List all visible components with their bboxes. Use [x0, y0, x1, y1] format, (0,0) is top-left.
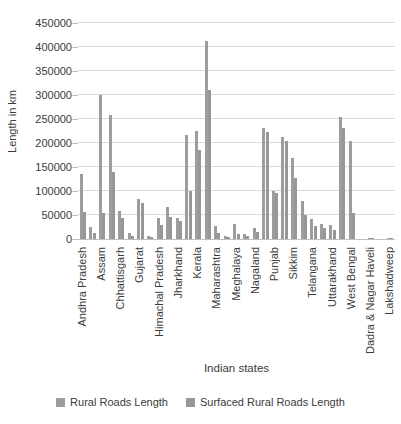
gridline — [78, 214, 395, 215]
bar-surfaced-rural-roads-length — [371, 238, 374, 239]
x-category-label: Kerala — [191, 247, 204, 279]
gridline — [78, 190, 395, 191]
bar-surfaced-rural-roads-length — [189, 191, 192, 239]
y-tick-label: 350000 — [0, 65, 72, 77]
y-tick-label: 300000 — [0, 89, 72, 101]
bar-surfaced-rural-roads-length — [160, 225, 163, 239]
bar-surfaced-rural-roads-length — [285, 141, 288, 239]
legend-label: Rural Roads Length — [70, 396, 168, 408]
x-category-label: Himachal Pradesh — [153, 247, 166, 337]
x-category-label: Dadra & Nagar Haveli — [364, 247, 377, 354]
bar-surfaced-rural-roads-length — [275, 193, 278, 239]
bar-surfaced-rural-roads-length — [131, 236, 134, 239]
bar-surfaced-rural-roads-length — [323, 228, 326, 239]
bar-surfaced-rural-roads-length — [83, 212, 86, 239]
y-tick-label: 150000 — [0, 161, 72, 173]
gridline — [78, 94, 395, 95]
bar-surfaced-rural-roads-length — [333, 230, 336, 239]
x-category-label: Jharkhand — [172, 247, 185, 298]
gridline — [78, 142, 395, 143]
x-category-label: Chhattisgarh — [114, 247, 127, 309]
bar-surfaced-rural-roads-length — [141, 203, 144, 239]
y-tick-label: 400000 — [0, 41, 72, 53]
chart: Length in km 050000100000150000200000250… — [0, 0, 401, 424]
bar-surfaced-rural-roads-length — [390, 238, 393, 239]
plot-area — [78, 23, 395, 239]
legend-swatch-icon — [186, 398, 195, 407]
y-tick-label: 0 — [0, 233, 72, 245]
bar-surfaced-rural-roads-length — [352, 213, 355, 239]
x-category-label: Maharashtra — [210, 247, 223, 309]
x-axis-title: Indian states — [78, 362, 395, 374]
legend-swatch-icon — [56, 398, 65, 407]
bar-surfaced-rural-roads-length — [93, 233, 96, 239]
bar-surfaced-rural-roads-length — [256, 232, 259, 239]
y-tick-label: 100000 — [0, 185, 72, 197]
legend-item: Surfaced Rural Roads Length — [186, 396, 345, 408]
bar-surfaced-rural-roads-length — [150, 237, 153, 239]
x-category-label: Sikkim — [287, 247, 300, 279]
x-category-label: Nagaland — [249, 247, 262, 294]
bar-surfaced-rural-roads-length — [208, 90, 211, 239]
y-tick-label: 250000 — [0, 113, 72, 125]
bar-surfaced-rural-roads-length — [217, 233, 220, 239]
y-tick-label: 200000 — [0, 137, 72, 149]
legend-label: Surfaced Rural Roads Length — [200, 396, 345, 408]
x-category-label: Meghalaya — [230, 247, 243, 301]
bar-surfaced-rural-roads-length — [112, 172, 115, 239]
x-category-label: Gujarat — [133, 247, 146, 283]
bar-surfaced-rural-roads-length — [246, 236, 249, 239]
x-category-label: Telangana — [306, 247, 319, 298]
x-axis-line — [78, 239, 395, 240]
gridline — [78, 166, 395, 167]
x-category-label: Lakshadweep — [383, 247, 396, 315]
bar-surfaced-rural-roads-length — [227, 237, 230, 239]
bar-surfaced-rural-roads-length — [237, 234, 240, 239]
x-category-label: Punjab — [268, 247, 281, 281]
gridline — [78, 70, 395, 71]
bar-surfaced-rural-roads-length — [294, 178, 297, 239]
x-category-label: West Bengal — [345, 247, 358, 309]
bar-surfaced-rural-roads-length — [342, 128, 345, 239]
gridline — [78, 46, 395, 47]
x-category-label: Assam — [95, 247, 108, 281]
gridline — [78, 22, 395, 23]
gridline — [78, 118, 395, 119]
x-category-label: Uttarakhand — [326, 247, 339, 307]
bar-surfaced-rural-roads-length — [102, 213, 105, 239]
y-tick-label: 450000 — [0, 17, 72, 29]
bar-surfaced-rural-roads-length — [304, 215, 307, 239]
y-tick-label: 50000 — [0, 209, 72, 221]
bar-surfaced-rural-roads-length — [121, 218, 124, 239]
bar-surfaced-rural-roads-length — [169, 217, 172, 239]
bar-surfaced-rural-roads-length — [179, 221, 182, 239]
x-category-label: Andhra Pradesh — [76, 247, 89, 327]
legend-item: Rural Roads Length — [56, 396, 168, 408]
bar-surfaced-rural-roads-length — [198, 150, 201, 239]
bar-surfaced-rural-roads-length — [266, 132, 269, 239]
bar-surfaced-rural-roads-length — [314, 226, 317, 239]
legend: Rural Roads LengthSurfaced Rural Roads L… — [0, 396, 401, 408]
